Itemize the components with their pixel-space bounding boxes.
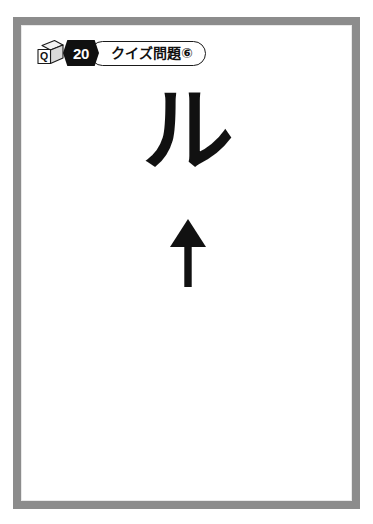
answer-blank-area [22, 302, 353, 502]
quiz-card-page: Q 20 クイズ問題⑥ ル [0, 0, 373, 524]
q-cube-icon: Q [34, 38, 64, 68]
svg-text:Q: Q [40, 50, 48, 62]
question-title-label: クイズ問題⑥ [111, 46, 193, 60]
card-frame: Q 20 クイズ問題⑥ ル [13, 17, 360, 509]
card-inner-surface: Q 20 クイズ問題⑥ ル [21, 25, 352, 501]
question-number-badge: 20 [63, 40, 99, 66]
badge-number-label: 20 [63, 40, 99, 66]
question-title-pill: クイズ問題⑥ [90, 41, 206, 66]
card-content: ル [22, 72, 353, 502]
card-header: Q 20 クイズ問題⑥ [34, 38, 206, 68]
quiz-character: ル [22, 86, 353, 178]
direction-arrow-up-icon [22, 217, 353, 289]
